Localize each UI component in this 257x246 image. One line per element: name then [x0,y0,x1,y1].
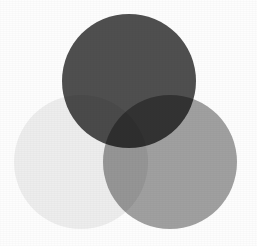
circle-top [62,14,196,148]
venn-diagram-svg [0,0,257,246]
venn-diagram-figure [0,0,257,246]
